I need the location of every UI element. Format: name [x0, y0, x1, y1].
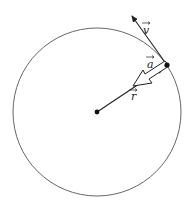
label-radius: r	[129, 89, 137, 104]
circular-motion-diagram: v a r	[0, 0, 192, 202]
label-velocity: v	[142, 22, 150, 38]
particle-dot	[164, 62, 169, 67]
svg-text:r: r	[131, 90, 137, 103]
svg-text:a: a	[147, 58, 154, 71]
label-acceleration: a	[146, 56, 154, 72]
svg-text:v: v	[143, 24, 150, 37]
center-dot	[95, 110, 100, 115]
